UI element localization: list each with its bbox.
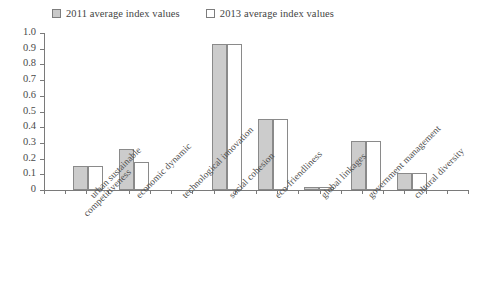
y-tick: 0.4 bbox=[40, 127, 44, 128]
y-tick-label: 0.9 bbox=[23, 42, 36, 53]
legend-entry-2013: 2013 average index values bbox=[206, 8, 334, 19]
y-tick-label: 0.4 bbox=[23, 120, 36, 131]
y-tick-label: 0.6 bbox=[23, 89, 36, 100]
y-tick-label: 0.5 bbox=[23, 105, 36, 116]
x-axis-category-labels: urban sustainablecompetitivenesseconomic… bbox=[0, 193, 481, 281]
y-tick: 0.2 bbox=[40, 159, 44, 160]
x-axis-label: competitiveness bbox=[81, 205, 94, 218]
x-axis-label: eco-friendliness bbox=[273, 193, 280, 200]
bar-2011 bbox=[73, 166, 88, 190]
legend-swatch-hollow-square bbox=[206, 9, 215, 18]
y-tick-label: 0.8 bbox=[23, 57, 36, 68]
y-tick-label: 1.0 bbox=[23, 26, 36, 37]
x-axis-label: technological innovation bbox=[180, 193, 187, 200]
x-axis-label: social cohesion bbox=[227, 193, 234, 200]
y-tick-label: 0.3 bbox=[23, 136, 36, 147]
legend-swatch-filled-square bbox=[52, 9, 61, 18]
bar-2011 bbox=[397, 173, 412, 190]
y-tick-label: 0.2 bbox=[23, 152, 36, 163]
bar-2013 bbox=[227, 44, 242, 190]
y-axis-line bbox=[44, 33, 45, 190]
y-tick-label: 0.1 bbox=[23, 167, 36, 178]
y-tick: 0.5 bbox=[40, 112, 44, 113]
legend-entry-2011: 2011 average index values bbox=[52, 8, 180, 19]
y-tick: 0.1 bbox=[40, 174, 44, 175]
x-axis-label: government management bbox=[366, 193, 373, 200]
y-tick: 0.3 bbox=[40, 143, 44, 144]
y-tick: 0.7 bbox=[40, 80, 44, 81]
x-axis-label: global linkages bbox=[319, 193, 326, 200]
bar-2011 bbox=[304, 187, 319, 190]
y-tick-label: 0.7 bbox=[23, 73, 36, 84]
bar-group bbox=[73, 33, 103, 190]
y-tick: 0.9 bbox=[40, 49, 44, 50]
x-axis-label: cultural diversity bbox=[412, 193, 419, 200]
x-axis-label: economic dynamic bbox=[134, 193, 141, 200]
y-tick: 0.6 bbox=[40, 96, 44, 97]
chart-legend: 2011 average index values 2013 average i… bbox=[52, 4, 382, 22]
chart-page: 2011 average index values 2013 average i… bbox=[0, 0, 481, 281]
y-tick: 0.8 bbox=[40, 64, 44, 65]
legend-label-2013: 2013 average index values bbox=[220, 8, 334, 19]
legend-label-2011: 2011 average index values bbox=[66, 8, 180, 19]
y-tick: 1.0 bbox=[40, 33, 44, 34]
